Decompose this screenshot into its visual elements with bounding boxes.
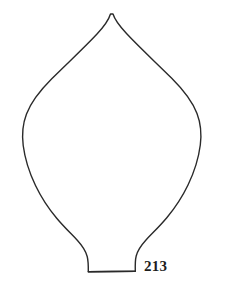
vessel-base-line xyxy=(88,271,135,272)
figure-plate: 213 xyxy=(0,0,226,292)
vessel-outline-drawing xyxy=(0,0,226,292)
figure-number-label: 213 xyxy=(144,259,167,274)
